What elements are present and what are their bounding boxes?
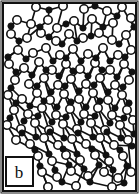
- filled-circle-node: [70, 68, 76, 74]
- filled-circle-node: [99, 67, 105, 73]
- open-circle-node: [40, 74, 48, 82]
- filled-circle-node: [105, 89, 111, 95]
- open-circle-node: [59, 120, 67, 128]
- filled-circle-node: [62, 83, 68, 89]
- filled-circle-node: [74, 38, 80, 44]
- open-circle-node: [122, 31, 130, 39]
- filled-circle-node: [56, 73, 62, 79]
- open-circle-node: [120, 60, 128, 68]
- filled-circle-node: [124, 163, 130, 169]
- filled-circle-node: [63, 21, 69, 27]
- open-circle-node: [80, 5, 88, 13]
- open-circle-node: [103, 7, 111, 15]
- open-circle-node: [5, 60, 13, 68]
- filled-circle-node: [35, 113, 41, 119]
- filled-circle-node: [118, 135, 124, 141]
- filled-circle-node: [107, 58, 113, 64]
- open-circle-node: [80, 110, 88, 118]
- filled-circle-node: [34, 83, 40, 89]
- open-circle-node: [127, 14, 135, 22]
- open-circle-node: [123, 106, 131, 114]
- filled-circle-node: [66, 162, 72, 168]
- filled-circle-node: [78, 58, 84, 64]
- filled-circle-node: [13, 100, 19, 106]
- open-circle-node: [4, 91, 12, 99]
- open-circle-node: [3, 121, 11, 129]
- open-circle-node: [114, 51, 122, 59]
- filled-circle-node: [68, 99, 74, 105]
- filled-circle-node: [46, 7, 52, 13]
- open-circle-node: [65, 30, 73, 38]
- filled-circle-node: [104, 129, 110, 135]
- filled-circle-node: [85, 73, 91, 79]
- open-circle-node: [67, 75, 75, 83]
- filled-circle-node: [126, 100, 132, 106]
- figure-panel-b: b: [0, 0, 139, 194]
- filled-circle-node: [87, 179, 93, 185]
- open-circle-node: [118, 3, 126, 11]
- filled-circle-node: [116, 41, 122, 47]
- open-circle-node: [100, 168, 108, 176]
- filled-circle-node: [32, 147, 38, 153]
- filled-circle-node: [83, 104, 89, 110]
- filled-circle-node: [117, 147, 123, 153]
- filled-circle-node: [50, 58, 56, 64]
- filled-circle-node: [8, 23, 14, 29]
- open-circle-node: [35, 58, 43, 66]
- filled-circle-node: [43, 67, 49, 73]
- open-circle-node: [82, 80, 90, 88]
- filled-circle-node: [47, 129, 53, 135]
- filled-circle-node: [60, 146, 66, 152]
- open-circle-node: [44, 183, 52, 191]
- open-circle-node: [70, 17, 78, 25]
- filled-circle-node: [48, 89, 54, 95]
- filled-circle-node: [13, 69, 19, 75]
- open-circle-node: [118, 91, 126, 99]
- panel-label: b: [15, 163, 24, 182]
- filled-circle-node: [63, 114, 69, 120]
- open-circle-node: [72, 182, 80, 190]
- filled-circle-node: [114, 13, 120, 19]
- filled-circle-node: [27, 103, 33, 109]
- open-circle-node: [42, 44, 50, 52]
- filled-circle-node: [59, 41, 65, 47]
- filled-circle-node: [59, 179, 65, 185]
- filled-circle-node: [91, 82, 97, 88]
- open-circle-node: [88, 15, 96, 23]
- filled-circle-node: [49, 119, 55, 125]
- open-circle-node: [26, 140, 34, 148]
- filled-circle-node: [92, 113, 98, 119]
- filled-circle-node: [74, 151, 80, 157]
- open-circle-node: [44, 16, 52, 24]
- filled-circle-node: [16, 38, 22, 44]
- open-circle-node: [111, 81, 119, 89]
- open-circle-node: [7, 30, 15, 38]
- open-circle-node: [66, 105, 74, 113]
- filled-circle-node: [41, 98, 47, 104]
- open-circle-node: [53, 24, 61, 32]
- filled-circle-node: [7, 115, 13, 121]
- filled-circle-node: [37, 24, 43, 30]
- open-circle-node: [13, 16, 21, 24]
- open-circle-node: [99, 44, 107, 52]
- open-circle-node: [29, 49, 37, 57]
- open-circle-node: [25, 80, 33, 88]
- open-circle-node: [68, 135, 76, 143]
- filled-circle-node: [88, 33, 94, 39]
- filled-circle-node: [96, 162, 102, 168]
- filled-circle-node: [76, 88, 82, 94]
- open-circle-node: [84, 50, 92, 58]
- open-circle-node: [106, 66, 114, 74]
- open-circle-node: [127, 46, 135, 54]
- filled-circle-node: [21, 118, 27, 124]
- open-circle-node: [54, 81, 62, 89]
- filled-circle-node: [110, 167, 116, 173]
- open-circle-node: [27, 20, 35, 28]
- filled-circle-node: [129, 69, 135, 75]
- open-circle-node: [76, 65, 84, 73]
- open-circle-node: [104, 96, 112, 104]
- filled-circle-node: [129, 143, 135, 149]
- filled-circle-node: [89, 146, 95, 152]
- filled-circle-node: [52, 167, 58, 173]
- open-circle-node: [10, 106, 18, 114]
